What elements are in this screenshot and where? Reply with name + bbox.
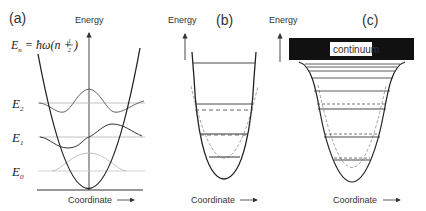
panel-c-tag: (c)	[362, 12, 378, 28]
panel-a-coordinate-label: Coordinate	[68, 195, 112, 205]
panel-b-coordinate-label: Coordinate	[191, 195, 235, 205]
panel-c-coordinate-label: Coordinate	[333, 195, 377, 205]
svg-text:2: 2	[68, 47, 71, 53]
finite-well-potential	[192, 52, 256, 179]
wavefunction-1	[40, 124, 142, 148]
anharmonic-potential	[299, 62, 405, 182]
label-e2: E2	[11, 96, 24, 113]
panel-a-energy-label: Energy	[75, 15, 104, 25]
panel-a: (a) Energy En = ħω(n + 1 2 ) E2 E1 E0 Co…	[9, 10, 145, 205]
continuum-label: continuum	[333, 44, 379, 55]
formula: En = ħω(n + 1 2 )	[10, 38, 78, 54]
label-e0: E0	[11, 164, 24, 181]
panel-b: Energy (b) Coordinate	[168, 12, 258, 205]
panel-c-energy-label: Energy	[269, 15, 298, 25]
panel-c: Energy (c) continuum Coordinate	[269, 12, 414, 205]
svg-text:En = ħω(n +: En = ħω(n +	[10, 38, 72, 54]
panel-a-tag: (a)	[9, 10, 26, 26]
label-e1: E1	[11, 130, 23, 147]
harmonic-reference	[191, 86, 258, 158]
panel-b-energy-label: Energy	[168, 15, 197, 25]
harmonic-reference	[318, 85, 386, 168]
panel-b-tag: (b)	[216, 12, 233, 28]
energy-level-diagram: (a) Energy En = ħω(n + 1 2 ) E2 E1 E0 Co…	[0, 0, 426, 211]
wavefunction-2	[39, 89, 144, 112]
svg-text:): )	[73, 38, 78, 52]
svg-text:1: 1	[68, 38, 71, 44]
